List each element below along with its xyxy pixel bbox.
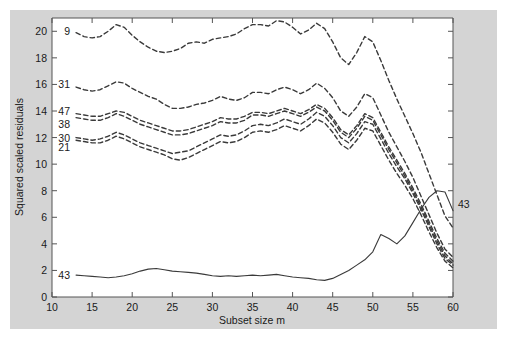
y-tick-label: 12 xyxy=(35,132,47,144)
y-tick-label: 10 xyxy=(35,158,47,170)
y-axis-label: Squared scaled residuals xyxy=(13,98,25,216)
y-tick-label: 2 xyxy=(41,264,47,276)
series-label-38: 38 xyxy=(58,118,70,130)
series-label-right-43: 43 xyxy=(458,198,470,210)
y-tick-label: 6 xyxy=(41,211,47,223)
series-label-9: 9 xyxy=(64,25,70,37)
x-tick-label: 55 xyxy=(407,301,419,313)
figure-panel: 101520253035404550556002468101214161820 … xyxy=(10,10,497,329)
x-tick-label: 15 xyxy=(86,301,98,313)
y-tick-label: 20 xyxy=(35,25,47,37)
x-tick-label: 60 xyxy=(447,301,459,313)
y-tick-label: 0 xyxy=(41,291,47,303)
series-label-21: 21 xyxy=(58,141,70,153)
series-label-31: 31 xyxy=(58,78,70,90)
y-tick-label: 14 xyxy=(35,105,47,117)
y-tick-label: 4 xyxy=(41,238,47,250)
x-tick-label: 10 xyxy=(46,301,58,313)
x-tick-label: 35 xyxy=(247,301,259,313)
series-label-43: 43 xyxy=(58,269,70,281)
x-tick-label: 30 xyxy=(207,301,219,313)
y-tick-label: 8 xyxy=(41,185,47,197)
x-tick-label: 40 xyxy=(287,301,299,313)
x-axis-label: Subset size m xyxy=(219,314,285,326)
series-label-47: 47 xyxy=(58,105,70,117)
x-tick-label: 50 xyxy=(367,301,379,313)
x-tick-label: 20 xyxy=(126,301,138,313)
x-tick-label: 45 xyxy=(327,301,339,313)
squared-scaled-residuals-chart: 101520253035404550556002468101214161820 … xyxy=(10,10,497,329)
chart-canvas: 101520253035404550556002468101214161820 … xyxy=(10,10,497,329)
y-tick-label: 18 xyxy=(35,52,47,64)
x-tick-label: 25 xyxy=(166,301,178,313)
y-tick-label: 16 xyxy=(35,78,47,90)
